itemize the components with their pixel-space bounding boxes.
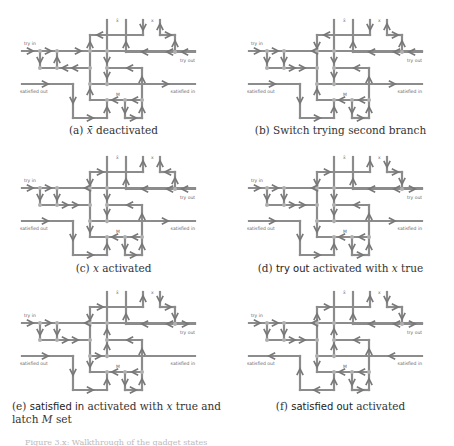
junction-node — [265, 66, 269, 70]
junction-node — [173, 50, 177, 54]
junction-node — [38, 338, 42, 342]
label-try-out: try out — [407, 58, 422, 63]
junction-node — [315, 338, 319, 342]
junction-node — [332, 203, 336, 207]
junction-node — [123, 370, 127, 374]
junction-node — [105, 66, 109, 70]
junction-node — [88, 203, 92, 207]
junction-node — [367, 98, 371, 102]
label-latch-m: M — [343, 92, 347, 97]
junction-node — [88, 338, 92, 342]
caption-f: (f) satisfied out activated — [227, 400, 454, 413]
label-satisfied-in: satisfied in — [398, 361, 423, 366]
label-try-in: try in — [251, 41, 263, 46]
subfigure-d: try intry outsatisfied outsatisfied inx̄… — [227, 140, 454, 285]
label-try-out: try out — [180, 330, 195, 335]
label-satisfied-out: satisfied out — [20, 89, 48, 94]
junction-node — [315, 82, 319, 86]
junction-node — [140, 235, 144, 239]
junction-node — [105, 321, 109, 325]
junction-node — [282, 49, 286, 53]
junction-node — [282, 321, 286, 325]
junction-node — [173, 187, 177, 191]
junction-node — [55, 321, 59, 325]
junction-node — [55, 66, 59, 70]
label-x-bar: x̄ — [116, 290, 119, 295]
label-latch-m: M — [343, 229, 347, 234]
label-satisfied-in: satisfied in — [171, 361, 196, 366]
label-x-bar: x̄ — [116, 18, 119, 23]
junction-node — [332, 338, 336, 342]
junction-node — [55, 338, 59, 342]
label-latch-m: M — [343, 364, 347, 369]
label-x-bar: x̄ — [343, 155, 346, 160]
junction-node — [350, 370, 354, 374]
caption-b: (b) Switch trying second branch — [227, 124, 454, 137]
label-try-in: try in — [251, 178, 263, 183]
junction-node — [88, 82, 92, 86]
caption-a: (a) x̄ deactivated — [0, 124, 227, 137]
figure-footer: Figure 3.x: Walkthrough of the gadget st… — [25, 438, 435, 446]
junction-node — [105, 49, 109, 53]
junction-node — [55, 203, 59, 207]
junction-node — [105, 235, 109, 239]
junction-node — [332, 186, 336, 190]
label-x: x — [378, 18, 381, 23]
junction-node — [105, 203, 109, 207]
junction-node — [350, 235, 354, 239]
junction-node — [332, 219, 336, 223]
junction-node — [350, 98, 354, 102]
junction-node — [88, 219, 92, 223]
gadget-diagram-c: try intry outsatisfied outsatisfied inx̄… — [0, 137, 227, 262]
label-satisfied-out: satisfied out — [247, 89, 275, 94]
label-x: x — [151, 18, 154, 23]
junction-node — [123, 98, 127, 102]
junction-node — [367, 235, 371, 239]
junction-node — [88, 49, 92, 53]
junction-node — [315, 219, 319, 223]
junction-node — [55, 186, 59, 190]
subfigure-f: try intry outsatisfied outsatisfied inx̄… — [227, 285, 454, 446]
junction-node — [140, 98, 144, 102]
junction-node — [38, 321, 42, 325]
junction-node — [55, 49, 59, 53]
label-satisfied-out: satisfied out — [247, 226, 275, 231]
junction-node — [105, 186, 109, 190]
junction-node — [173, 322, 177, 326]
junction-node — [265, 49, 269, 53]
junction-node — [105, 354, 109, 358]
gadget-diagram-b: try intry outsatisfied outsatisfied inx̄… — [227, 0, 454, 125]
label-x: x — [378, 155, 381, 160]
junction-node — [315, 66, 319, 70]
junction-node — [332, 82, 336, 86]
junction-node — [332, 354, 336, 358]
junction-node — [38, 49, 42, 53]
label-try-out: try out — [407, 330, 422, 335]
label-satisfied-in: satisfied in — [398, 89, 423, 94]
label-satisfied-out: satisfied out — [20, 361, 48, 366]
caption-e: (e) satisfied in activated with x true a… — [12, 400, 221, 426]
label-x: x — [151, 155, 154, 160]
junction-node — [38, 203, 42, 207]
subfigure-c: try intry outsatisfied outsatisfied inx̄… — [0, 140, 227, 285]
label-try-out: try out — [180, 58, 195, 63]
label-try-in: try in — [24, 41, 36, 46]
label-try-out: try out — [407, 195, 422, 200]
junction-node — [332, 321, 336, 325]
subfigure-e: try intry outsatisfied outsatisfied inx̄… — [0, 285, 227, 446]
junction-node — [105, 370, 109, 374]
junction-node — [140, 370, 144, 374]
label-satisfied-in: satisfied in — [171, 226, 196, 231]
junction-node — [367, 370, 371, 374]
junction-node — [265, 203, 269, 207]
junction-node — [105, 82, 109, 86]
junction-node — [332, 49, 336, 53]
junction-node — [105, 219, 109, 223]
junction-node — [315, 203, 319, 207]
junction-node — [282, 203, 286, 207]
label-x-bar: x̄ — [343, 290, 346, 295]
subfigure-a: try intry outsatisfied outsatisfied inx̄… — [0, 0, 227, 140]
junction-node — [38, 66, 42, 70]
label-try-in: try in — [24, 313, 36, 318]
junction-node — [332, 98, 336, 102]
